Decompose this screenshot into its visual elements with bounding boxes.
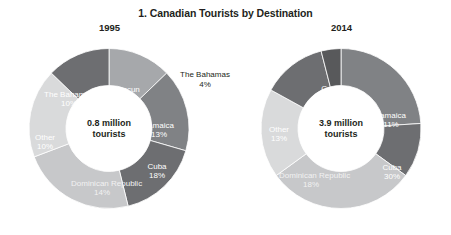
donut-slice-cancun [341,49,421,126]
donut-chart-2014: 3.9 million tourists Cancun 24% Jamaica … [241,36,441,221]
donut-slice-cuba [276,154,405,209]
external-label-pct: 4% [199,80,211,89]
donut-svg-2014 [241,36,441,221]
panel-year-label-1995: 1995 [2,22,217,33]
panel-year-label-2014: 2014 [234,22,449,33]
external-label-the-bahamas-2014: The Bahamas 4% [168,70,242,89]
page-title: 1. Canadian Tourists by Destination [0,7,451,19]
chart-panel-2014: 2014 3.9 million tourists Cancun 24% Jam… [234,22,449,232]
chart-panel-1995: 1995 0.8 million tourists The Bahamas 10… [2,22,217,232]
donut-chart-1995: 0.8 million tourists The Bahamas 10% Can… [9,36,209,221]
donut-slice-jamaica [119,140,186,206]
external-label-text: The Bahamas [180,70,230,79]
donut-slice-cuba [34,144,128,209]
donut-svg-1995 [9,36,209,221]
